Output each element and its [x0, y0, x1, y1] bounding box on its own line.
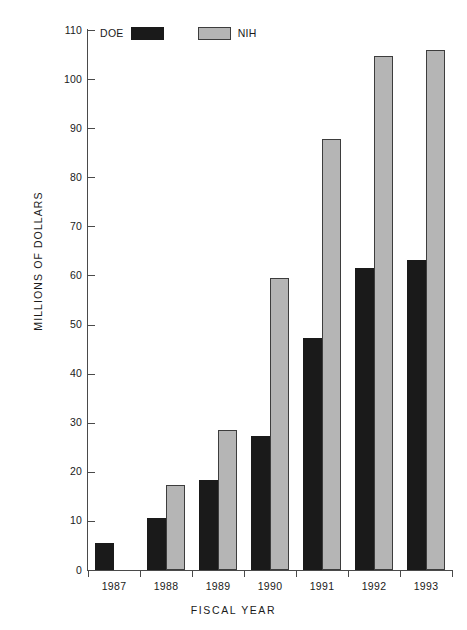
- x-axis-tick: [452, 571, 453, 577]
- x-axis-tick-label-1987: 1987: [84, 580, 144, 592]
- y-axis-tick-label: 10: [42, 515, 82, 526]
- y-axis-label-wrap: 60: [38, 270, 82, 281]
- x-axis-tick-label-1990: 1990: [240, 580, 300, 592]
- x-axis-tick-label-1993: 1993: [396, 580, 456, 592]
- x-axis-tick: [192, 571, 193, 577]
- bar-doe-1989: [199, 480, 218, 570]
- x-axis-tick-label-1988: 1988: [136, 580, 196, 592]
- x-axis-tick: [88, 571, 89, 577]
- y-axis-tick-label: 80: [42, 172, 82, 183]
- bar-doe-1993: [407, 260, 426, 570]
- y-axis-label-wrap: 110: [38, 25, 82, 36]
- y-axis-tick-label: 60: [42, 270, 82, 281]
- x-axis-tick-label-1992: 1992: [344, 580, 404, 592]
- y-axis-tick-label: 20: [42, 466, 82, 477]
- y-axis-label-wrap: 90: [38, 123, 82, 134]
- plot-area: [88, 30, 452, 570]
- x-axis-tick-label-1989: 1989: [188, 580, 248, 592]
- bar-nih-1988: [166, 485, 185, 570]
- y-axis-tick-label: 100: [42, 74, 82, 85]
- x-axis-tick: [296, 571, 297, 577]
- y-axis-tick: [88, 570, 95, 571]
- bar-nih-1989: [218, 430, 237, 570]
- y-axis-label-wrap: 0: [38, 565, 82, 576]
- bar-nih-1992: [374, 56, 393, 570]
- bar-nih-1993: [426, 50, 445, 570]
- x-axis-tick-label-1991: 1991: [292, 580, 352, 592]
- y-axis-label-wrap: 40: [38, 368, 82, 379]
- x-axis-tick: [244, 571, 245, 577]
- bar-doe-1988: [147, 518, 166, 570]
- bar-doe-1987: [95, 543, 114, 570]
- y-axis-tick-label: 90: [42, 123, 82, 134]
- y-axis-label-wrap: 70: [38, 221, 82, 232]
- bar-doe-1990: [251, 436, 270, 571]
- bar-doe-1992: [355, 268, 374, 570]
- y-axis-label-wrap: 10: [38, 515, 82, 526]
- x-axis-tick: [400, 571, 401, 577]
- x-axis-tick: [348, 571, 349, 577]
- y-axis-label-wrap: 50: [38, 319, 82, 330]
- x-axis-tick: [140, 571, 141, 577]
- y-axis-label-wrap: 20: [38, 466, 82, 477]
- y-axis-tick-label: 0: [42, 565, 82, 576]
- y-axis-tick-label: 30: [42, 417, 82, 428]
- y-axis-tick-label: 40: [42, 368, 82, 379]
- y-axis-title: MILLIONS OF DOLLARS: [32, 161, 44, 361]
- bar-nih-1991: [322, 139, 341, 570]
- y-axis-label-wrap: 30: [38, 417, 82, 428]
- y-axis-label-wrap: 100: [38, 74, 82, 85]
- y-axis-tick-label: 50: [42, 319, 82, 330]
- y-axis-tick-label: 110: [42, 25, 82, 36]
- x-axis-title: FISCAL YEAR: [0, 604, 467, 616]
- y-axis-label-wrap: 80: [38, 172, 82, 183]
- bar-chart-figure: DOE NIH MILLIONS OF DOLLARS 010203040506…: [0, 0, 467, 630]
- y-axis-tick-label: 70: [42, 221, 82, 232]
- bar-nih-1990: [270, 278, 289, 570]
- x-axis-line: [87, 570, 453, 571]
- bar-doe-1991: [303, 338, 322, 570]
